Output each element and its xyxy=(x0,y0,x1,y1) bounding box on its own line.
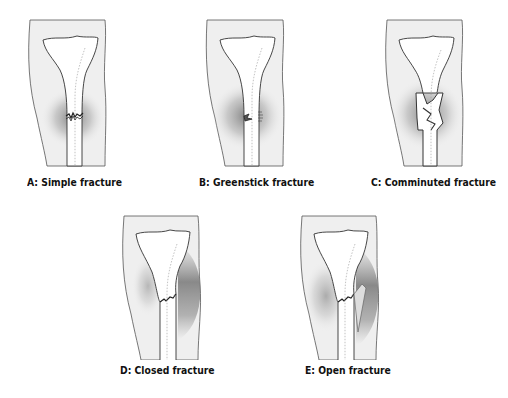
caption-comminuted-fracture: C: Comminuted fracture xyxy=(371,176,496,188)
leg-illustration-greenstick xyxy=(205,18,295,168)
leg-illustration-open xyxy=(298,214,388,360)
panel-closed-fracture: D: Closed fracture xyxy=(120,214,210,364)
panel-comminuted-fracture: C: Comminuted fracture xyxy=(383,18,473,168)
panel-open-fracture: E: Open fracture xyxy=(298,214,388,364)
leg-illustration-closed xyxy=(120,214,210,360)
caption-simple-fracture: A: Simple fracture xyxy=(27,176,122,188)
caption-closed-fracture: D: Closed fracture xyxy=(120,364,215,376)
leg-illustration-simple xyxy=(25,18,115,168)
caption-greenstick-fracture: B: Greenstick fracture xyxy=(199,176,314,188)
leg-illustration-comminuted xyxy=(383,18,473,168)
panel-greenstick-fracture: B: Greenstick fracture xyxy=(205,18,295,168)
panel-simple-fracture: A: Simple fracture xyxy=(25,18,115,168)
caption-open-fracture: E: Open fracture xyxy=(305,364,391,376)
